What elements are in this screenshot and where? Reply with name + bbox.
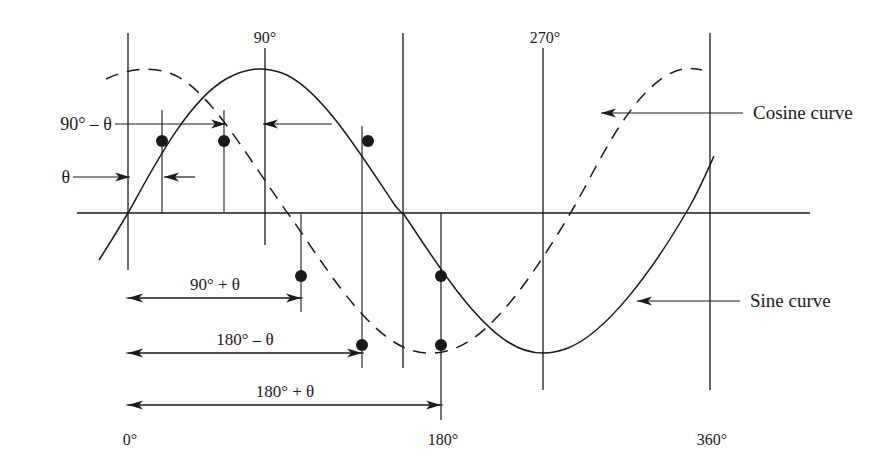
- marked-point: [435, 270, 447, 282]
- marked-point: [356, 339, 368, 351]
- dimension-label-180-plus-theta: 180° + θ: [256, 383, 315, 400]
- marked-point: [362, 135, 374, 147]
- ordinate-lines: [128, 33, 710, 420]
- label-cosine-curve: Cosine curve: [753, 103, 853, 122]
- label-sine-curve: Sine curve: [750, 291, 831, 310]
- cosine-curve: [106, 68, 702, 353]
- tick-label-360: 360°: [697, 432, 727, 448]
- dimension-label-90-plus-theta: 90° + θ: [190, 276, 240, 293]
- label-theta: θ: [61, 168, 70, 186]
- marked-point: [295, 270, 307, 282]
- trigonometry-figure: 90° 270° 0° 180° 360° 90° – θ θ 90° + θ …: [0, 0, 887, 471]
- dimension-label-180-minus-theta: 180° – θ: [216, 331, 273, 348]
- tick-label-0: 0°: [123, 432, 137, 448]
- sine-curve: [99, 69, 714, 353]
- figure-canvas: [0, 0, 887, 471]
- marked-point: [435, 339, 447, 351]
- tick-label-180: 180°: [428, 432, 458, 448]
- tick-label-270: 270°: [530, 30, 560, 46]
- tick-label-90: 90°: [254, 30, 276, 46]
- marked-point: [156, 135, 168, 147]
- label-90-minus-theta: 90° – θ: [60, 115, 112, 133]
- marked-point: [218, 135, 230, 147]
